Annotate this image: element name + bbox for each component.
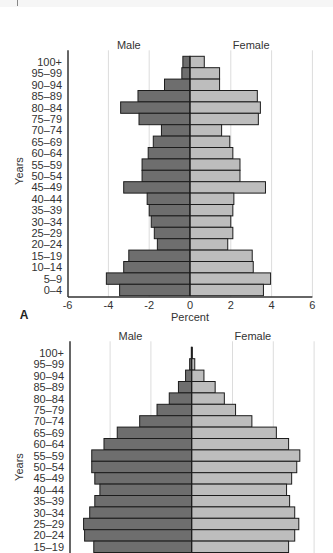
bar-female: [192, 484, 287, 495]
age-label: 90–94: [33, 370, 64, 382]
bar-male: [139, 113, 190, 124]
bar-female: [192, 461, 297, 472]
bar-female: [190, 182, 265, 193]
bar-female: [190, 68, 220, 79]
age-label: 30–34: [31, 216, 62, 228]
age-label: 20–24: [31, 238, 62, 250]
age-label: 65–69: [33, 427, 64, 439]
bar-female: [190, 193, 234, 204]
y-axis-title: Years: [13, 453, 25, 481]
bar-male: [138, 91, 190, 102]
x-axis-title: Percent: [171, 311, 209, 323]
age-label: 50–54: [31, 170, 62, 182]
bar-female: [192, 427, 277, 438]
bar-male: [100, 484, 192, 495]
bar-female: [192, 404, 236, 415]
age-label: 40–44: [33, 484, 64, 496]
population-pyramids: MaleFemale100+95–9990–9485–8980–8475–797…: [0, 0, 333, 553]
age-label: 60–64: [33, 438, 64, 450]
bar-male: [147, 193, 190, 204]
age-label: 75–79: [31, 113, 62, 125]
bar-female: [190, 136, 230, 147]
bar-male: [165, 79, 191, 90]
bar-female: [190, 102, 260, 113]
age-label: 55–59: [33, 450, 64, 462]
bar-male: [120, 284, 190, 295]
x-tick-label: -6: [63, 299, 73, 311]
bar-female: [190, 262, 253, 273]
bar-female: [192, 518, 299, 529]
age-label: 55–59: [31, 159, 62, 171]
age-label: 15–19: [33, 541, 64, 553]
bar-male: [157, 239, 190, 250]
age-label: 65–69: [31, 136, 62, 148]
bar-male: [151, 216, 190, 227]
age-label: 10–14: [31, 261, 62, 273]
bar-female: [190, 216, 231, 227]
bar-male: [186, 370, 192, 381]
bar-female: [192, 450, 300, 461]
bar-male: [142, 170, 190, 181]
header-female: Female: [235, 330, 272, 342]
bar-male: [161, 125, 190, 136]
age-label: 60–64: [31, 147, 62, 159]
bar-female: [192, 473, 292, 484]
bar-male: [95, 496, 192, 507]
bar-female: [192, 530, 295, 541]
bar-female: [190, 79, 220, 90]
bar-female: [190, 205, 233, 216]
bar-male: [183, 56, 190, 67]
bar-female: [192, 393, 225, 404]
bar-male: [117, 427, 191, 438]
bar-female: [190, 227, 233, 238]
bar-male: [157, 404, 192, 415]
bar-male: [104, 439, 192, 450]
age-label: 5–9: [44, 273, 62, 285]
x-tick-label: 2: [228, 299, 234, 311]
bar-female: [192, 370, 204, 381]
bar-male: [169, 393, 191, 404]
bar-female: [190, 159, 240, 170]
age-label: 95–99: [33, 358, 64, 370]
bar-male: [140, 416, 192, 427]
age-label: 95–99: [31, 67, 62, 79]
bar-male: [92, 450, 192, 461]
bar-female: [190, 284, 263, 295]
bar-male: [92, 461, 192, 472]
bar-female: [192, 382, 215, 393]
bar-female: [192, 507, 295, 518]
header-female: Female: [233, 39, 270, 51]
bar-female: [190, 250, 252, 261]
bar-male: [90, 507, 192, 518]
x-tick-label: 4: [269, 299, 275, 311]
bar-female: [190, 56, 204, 67]
bar-female: [190, 148, 233, 159]
header-male: Male: [119, 330, 143, 342]
y-axis-title: Years: [13, 157, 25, 185]
age-label: 70–74: [31, 124, 62, 136]
bar-male: [94, 541, 192, 552]
age-label: 25–29: [31, 227, 62, 239]
panel-label: A: [20, 308, 29, 322]
bar-male: [148, 148, 190, 159]
bar-male: [106, 273, 190, 284]
age-label: 15–19: [31, 250, 62, 262]
age-label: 45–49: [31, 181, 62, 193]
header-male: Male: [117, 39, 141, 51]
bar-male: [153, 136, 190, 147]
bar-female: [190, 113, 258, 124]
bar-male: [124, 182, 190, 193]
bar-female: [190, 273, 271, 284]
age-label: 85–89: [33, 381, 64, 393]
bar-female: [192, 439, 289, 450]
bar-male: [124, 262, 190, 273]
age-label: 35–39: [31, 204, 62, 216]
bar-female: [192, 541, 289, 552]
age-label: 50–54: [33, 461, 64, 473]
bar-male: [142, 159, 190, 170]
x-tick-label: -4: [104, 299, 114, 311]
bar-female: [190, 170, 240, 181]
age-label: 70–74: [33, 415, 64, 427]
x-tick-label: 6: [309, 299, 315, 311]
age-label: 85–89: [31, 90, 62, 102]
